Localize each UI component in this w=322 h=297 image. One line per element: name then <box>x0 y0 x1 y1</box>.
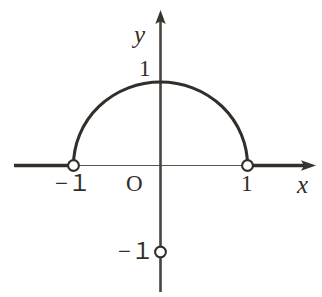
open-circle-marker-left <box>68 160 79 171</box>
x-tick-label-minus-one: −１ <box>55 172 91 195</box>
open-circle-marker-right <box>242 160 253 171</box>
x-axis-label: x <box>297 172 308 197</box>
coordinate-plane-svg <box>0 0 322 297</box>
graph-figure: y x 1 O −１ 1 −１ <box>0 0 322 297</box>
y-tick-label-minus-one: −１ <box>118 240 154 263</box>
x-tick-label-one: 1 <box>241 172 253 195</box>
y-tick-label-one: 1 <box>139 57 151 80</box>
open-circle-marker-bottom <box>155 247 166 258</box>
origin-label: O <box>126 172 143 195</box>
graph-group <box>14 82 304 165</box>
y-axis-label: y <box>134 22 145 47</box>
